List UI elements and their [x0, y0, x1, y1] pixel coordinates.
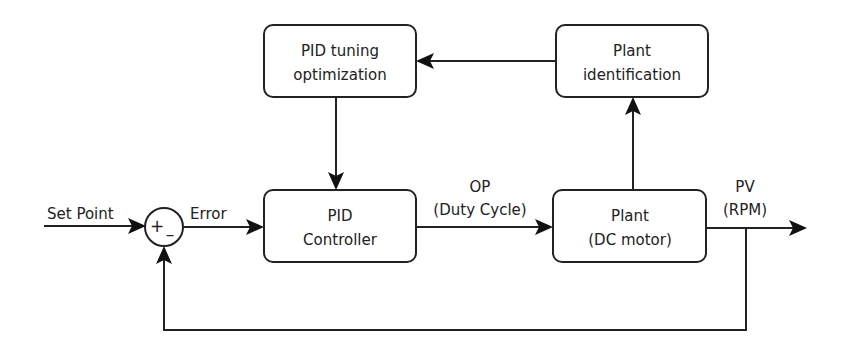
pid-controller-label-line2: Controller	[303, 231, 378, 249]
op-signal-arrow: OP (Duty Cycle)	[416, 178, 553, 235]
plant-identification-label-line1: Plant	[613, 42, 651, 60]
op-label-line1: OP	[470, 178, 491, 196]
plant-box	[553, 190, 706, 262]
error-signal-arrow: Error	[183, 205, 264, 235]
pid-tuning-label-line1: PID tuning	[301, 42, 379, 60]
pid-control-diagram: PID tuning optimization Plant identifica…	[0, 0, 846, 345]
op-label-line2: (Duty Cycle)	[433, 201, 526, 219]
plant-to-identification-arrow	[625, 97, 641, 190]
plant-identification-box	[556, 25, 708, 97]
identification-to-tuning-arrow	[416, 53, 556, 69]
block-plant-identification: Plant identification	[556, 25, 708, 97]
pid-controller-label-line1: PID	[327, 207, 352, 225]
plant-identification-label-line2: identification	[583, 66, 681, 84]
summing-junction: + –	[145, 208, 183, 246]
tuning-to-controller-arrow	[328, 97, 344, 190]
block-pid-controller: PID Controller	[264, 190, 416, 262]
block-plant-dc-motor: Plant (DC motor)	[553, 190, 706, 262]
set-point-input-arrow: Set Point	[44, 205, 146, 234]
pid-controller-box	[264, 190, 416, 262]
pid-tuning-label-line2: optimization	[293, 66, 386, 84]
pv-label-line1: PV	[735, 178, 755, 196]
error-label: Error	[190, 205, 227, 223]
block-pid-tuning-optimization: PID tuning optimization	[264, 25, 416, 97]
pv-output-arrow: PV (RPM)	[706, 178, 807, 236]
pv-label-line2: (RPM)	[723, 201, 767, 219]
plant-label-line1: Plant	[611, 207, 649, 225]
plant-label-line2: (DC motor)	[588, 231, 672, 249]
set-point-label: Set Point	[47, 205, 114, 223]
minus-sign: –	[166, 224, 175, 244]
pid-tuning-box	[264, 25, 416, 97]
plus-sign: +	[150, 216, 164, 236]
